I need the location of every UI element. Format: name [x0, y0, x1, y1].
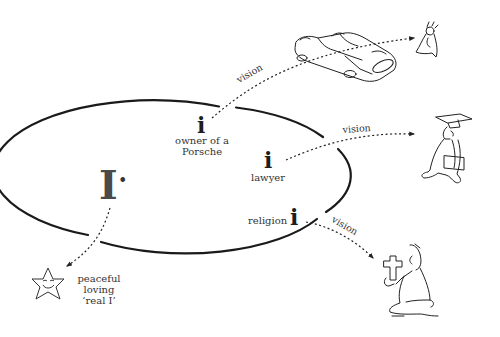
self-ellipse — [0, 100, 351, 253]
identity-religion-glyph: i — [290, 206, 298, 228]
core-self-dot: • — [118, 173, 127, 189]
vision-arrow-real-self — [67, 208, 110, 266]
bride-drawing — [416, 22, 438, 57]
identity-lawyer-glyph: i — [264, 149, 272, 171]
graduate-drawing — [422, 114, 472, 183]
smiling-star-icon — [32, 268, 64, 299]
identity-lawyer-label: lawyer — [250, 172, 286, 183]
identity-porsche-glyph: i — [197, 114, 205, 136]
identity-religion-label: religion — [248, 215, 287, 226]
core-self-glyph: I — [99, 165, 118, 205]
diagram-canvas: I • i owner of a Porsche vision i lawyer… — [0, 0, 500, 337]
praying-man-drawing — [384, 244, 438, 316]
vision-label-lawyer: vision — [342, 122, 371, 135]
real-self-label: peaceful loving ‘real I’ — [73, 273, 125, 306]
identity-porsche-label: owner of a Porsche — [170, 135, 234, 157]
car-drawing — [295, 33, 396, 82]
vision-arrow-lawyer — [286, 134, 414, 160]
